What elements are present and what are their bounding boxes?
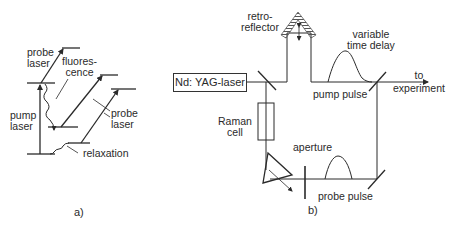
caption-a: a) xyxy=(74,207,84,218)
probe-laser-label-right: probe laser xyxy=(111,108,138,130)
label-line: laser xyxy=(10,121,36,132)
optical-setup xyxy=(246,12,428,199)
aperture-label: aperture xyxy=(293,142,332,153)
pump-pulse-shape xyxy=(328,51,372,82)
label-line: to xyxy=(393,70,445,81)
label-line: laser xyxy=(111,119,138,130)
beam-splitter xyxy=(258,71,276,90)
fluorescence-leader xyxy=(56,79,68,99)
fluorescence-label: fluores- cence xyxy=(62,56,97,78)
retroreflector-label: retro- reflector xyxy=(241,11,279,33)
relaxation-wavy-line xyxy=(50,143,69,154)
pump-pulse-label: pump pulse xyxy=(313,89,367,100)
label-line: reflector xyxy=(241,22,279,33)
nd-yag-laser-box: Nd: YAG-laser xyxy=(173,73,247,92)
caption-b: b) xyxy=(308,205,318,216)
label-line: time delay xyxy=(347,40,395,51)
label-line: cell xyxy=(218,127,252,138)
fluorescence-wavy-arrow xyxy=(44,84,54,130)
pump-laser-label: pump laser xyxy=(10,110,36,132)
probe-pulse-label: probe pulse xyxy=(318,191,373,202)
probe-pulse-shape xyxy=(325,156,352,179)
variable-time-delay-label: variable time delay xyxy=(347,29,395,51)
relaxation-label: relaxation xyxy=(83,148,129,159)
label-line: cence xyxy=(62,67,97,78)
probe-laser-label-top: probe laser xyxy=(27,47,54,69)
retroreflector xyxy=(281,12,316,38)
raman-cell-label: Raman cell xyxy=(218,116,252,138)
label-line: laser xyxy=(27,58,54,69)
probe-laser-leader-2 xyxy=(104,113,110,117)
label-line: experiment xyxy=(393,83,445,94)
relaxation-leader xyxy=(67,146,78,153)
to-experiment-label: to experiment xyxy=(393,70,445,94)
